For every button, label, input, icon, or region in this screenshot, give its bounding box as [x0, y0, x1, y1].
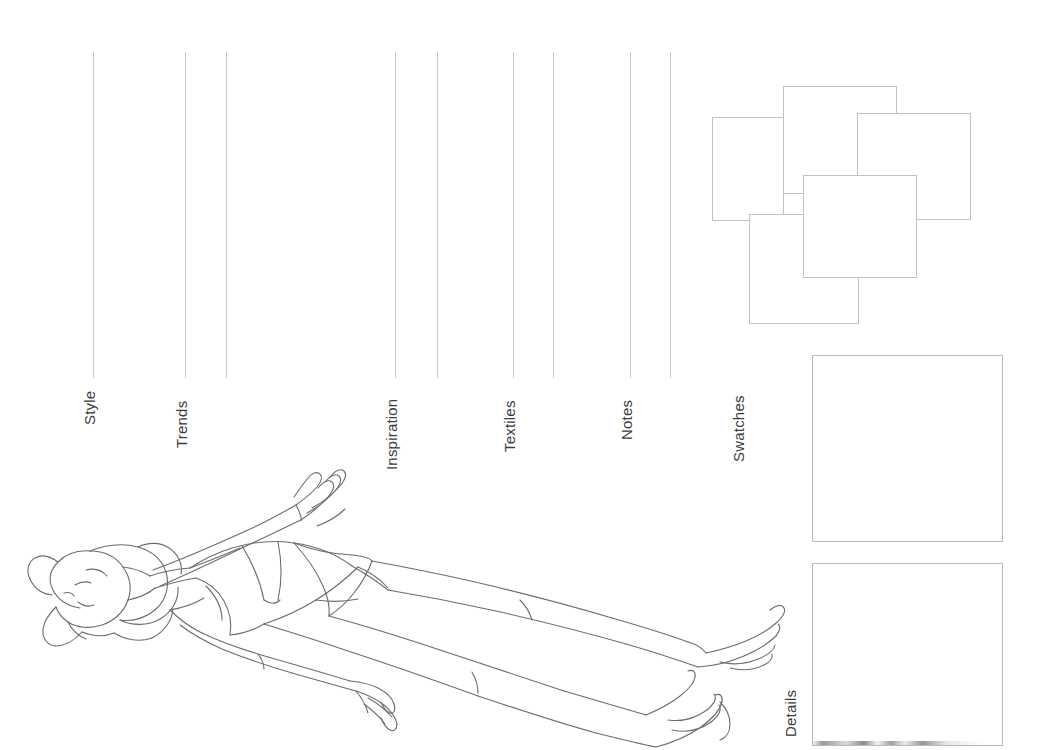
croquis-lowered-arm [170, 610, 397, 731]
croquis-back-leg [264, 616, 730, 747]
swatch-box-1[interactable] [712, 117, 784, 221]
mood-board-page: Style Trends Inspiration Textiles Notes … [0, 0, 1053, 750]
croquis-front-leg [372, 561, 785, 670]
rule-textiles-2 [553, 52, 554, 378]
fashion-croquis [20, 410, 820, 750]
rule-notes-2 [670, 52, 671, 378]
rule-inspiration-1 [395, 52, 396, 378]
details-panel-upper[interactable] [812, 355, 1003, 542]
page-edge-smudge [812, 741, 984, 745]
rule-trends-2 [226, 52, 227, 378]
croquis-svg [20, 410, 820, 750]
croquis-torso [170, 542, 358, 635]
rule-notes-1 [630, 52, 631, 378]
rule-style-1 [93, 52, 94, 378]
rule-inspiration-2 [437, 52, 438, 378]
rule-textiles-1 [513, 52, 514, 378]
rule-trends-1 [185, 52, 186, 378]
swatch-box-5[interactable] [803, 175, 917, 278]
details-panel-lower[interactable] [812, 563, 1003, 746]
croquis-head [28, 543, 181, 646]
